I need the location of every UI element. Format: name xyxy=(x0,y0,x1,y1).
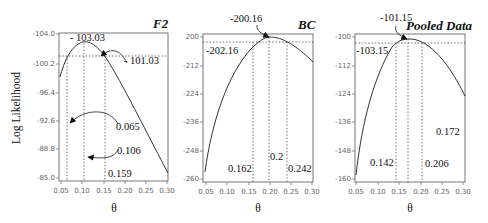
y-tick: 200 xyxy=(186,33,199,41)
x-tick: 0.15 xyxy=(391,188,407,196)
y-tick: -236 xyxy=(183,118,199,126)
upper-label: 0.206 xyxy=(425,158,449,169)
x-tick: 0.10 xyxy=(219,188,235,196)
x-tick: 0.30 xyxy=(455,188,471,196)
y-axis-label: Log Likelihood xyxy=(10,72,23,144)
y-tick: -100 xyxy=(335,33,351,41)
panel-pooled: Pooled Data -100 -112 -124 -136 -148 -16… xyxy=(335,12,472,214)
lower-label: 0.065 xyxy=(116,121,140,132)
arrow-icon xyxy=(88,150,118,158)
y-tick: -260 xyxy=(183,175,199,183)
y-tick: -92.6 xyxy=(37,117,56,125)
mle-label: 0.172 xyxy=(436,126,460,137)
upper-label: 0.242 xyxy=(288,163,312,174)
panel-title-bc: BC xyxy=(297,17,316,32)
x-tick: 0.05 xyxy=(348,188,364,196)
x-tick: 0.05 xyxy=(198,188,214,196)
x-tick: 0.10 xyxy=(74,187,90,195)
lower-label: 0.142 xyxy=(370,157,394,168)
y-axis-f2: -104.0 -100.2 -96.4 -92.6 -88.8 -85.0 xyxy=(32,30,59,182)
y-tick: -160 xyxy=(335,175,351,183)
y-tick: -88.8 xyxy=(37,145,55,153)
x-tick: 0.15 xyxy=(241,188,257,196)
interval-label: -202.16 xyxy=(206,45,238,56)
y-tick: -124 xyxy=(335,90,351,98)
x-axis-label: θ xyxy=(111,202,117,214)
x-axis-f2: 0.05 0.10 0.15 0.20 0.25 0.30 θ xyxy=(53,181,175,214)
x-tick: 0.10 xyxy=(370,188,386,196)
x-tick: 0.25 xyxy=(283,188,299,196)
mle-label: 0.2 xyxy=(270,151,283,162)
x-axis-pooled: 0.05 0.10 0.15 0.20 0.25 0.30 θ xyxy=(348,182,471,214)
x-tick: 0.30 xyxy=(159,187,175,195)
interval-label: - 101.03 xyxy=(124,55,159,66)
y-axis-bc: 200 -212 -224 -236 -248 -260 xyxy=(183,33,203,183)
panel-title-f2: F2 xyxy=(152,16,169,31)
x-axis-bc: 0.05 0.10 0.15 0.20 0.25 0.30 θ xyxy=(198,182,320,214)
x-tick: 0.25 xyxy=(138,187,154,195)
y-tick: -148 xyxy=(335,147,351,155)
y-tick: -224 xyxy=(183,90,199,98)
x-tick: 0.05 xyxy=(53,187,69,195)
lower-label: 0.162 xyxy=(228,163,252,174)
x-tick: 0.20 xyxy=(413,188,429,196)
max-label: -200.16 xyxy=(230,13,262,24)
x-axis-label: θ xyxy=(407,202,413,214)
upper-label: 0.159 xyxy=(108,168,132,179)
likelihood-figure: Log Likelihood F2 -104.0 -100.2 -96.4 -9… xyxy=(0,0,488,223)
y-tick: -104.0 xyxy=(32,30,55,38)
y-tick: -212 xyxy=(183,62,199,70)
x-tick: 0.20 xyxy=(117,187,133,195)
likelihood-curve-bc xyxy=(205,37,313,172)
y-tick: -100.2 xyxy=(32,60,55,68)
max-label: -101.15 xyxy=(380,12,412,23)
y-tick: -96.4 xyxy=(37,89,56,97)
y-tick: -85.0 xyxy=(37,174,55,182)
panel-f2: F2 -104.0 -100.2 -96.4 -92.6 -88.8 -85.0… xyxy=(32,16,174,214)
y-tick: -112 xyxy=(335,62,351,70)
panel-bc: BC 200 -212 -224 -236 -248 -260 0.05 0.1… xyxy=(183,13,320,214)
panel-title-pooled: Pooled Data xyxy=(406,18,473,33)
arrow-icon xyxy=(257,25,269,37)
likelihood-curve-pooled xyxy=(356,39,465,175)
interval-label: -103.15 xyxy=(356,45,388,56)
arrow-icon xyxy=(70,112,118,124)
x-tick: 0.25 xyxy=(434,188,450,196)
x-tick: 0.30 xyxy=(304,188,320,196)
y-tick: -136 xyxy=(335,118,351,126)
x-axis-label: θ xyxy=(255,202,261,214)
x-tick: 0.20 xyxy=(262,188,278,196)
max-label: - 103.03 xyxy=(70,32,105,43)
y-axis-pooled: -100 -112 -124 -136 -148 -160 xyxy=(335,33,355,183)
x-tick: 0.15 xyxy=(96,187,112,195)
mle-label: 0.106 xyxy=(117,145,141,156)
y-tick: -248 xyxy=(183,147,199,155)
